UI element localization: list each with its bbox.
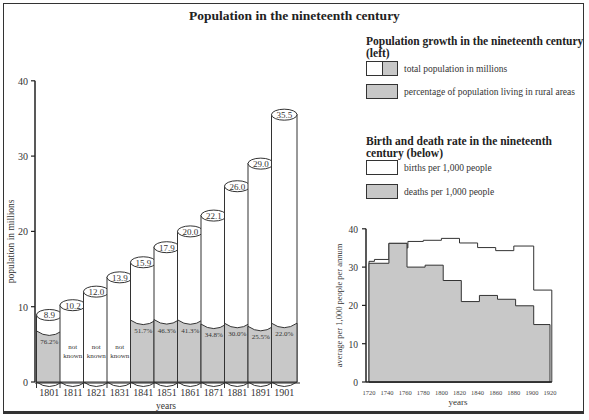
x-tick-label: 1800 [435, 389, 448, 396]
y-tick-label: 20 [349, 301, 359, 311]
x-tick-label: 1820 [453, 389, 466, 396]
x-tick-label: 1840 [471, 389, 484, 396]
x-tick-label: 1760 [399, 389, 412, 396]
x-tick-label: 1900 [525, 389, 538, 396]
x-axis-label: years [449, 397, 468, 407]
y-tick-label: 30 [349, 263, 359, 273]
birth-death-step-chart: 010203040average per 1,000 people per an… [0, 0, 589, 420]
x-tick-label: 1880 [507, 389, 520, 396]
x-tick-label: 1740 [381, 389, 394, 396]
y-tick-label: 40 [349, 225, 359, 235]
x-tick-label: 1860 [489, 389, 502, 396]
x-tick-label: 1780 [417, 389, 430, 396]
y-tick-label: 10 [349, 340, 359, 350]
x-tick-label: 1720 [363, 389, 376, 396]
y-axis-label: average per 1,000 people per annum [334, 243, 344, 367]
x-tick-label: 1920 [544, 389, 557, 396]
y-tick-label: 0 [353, 378, 358, 388]
